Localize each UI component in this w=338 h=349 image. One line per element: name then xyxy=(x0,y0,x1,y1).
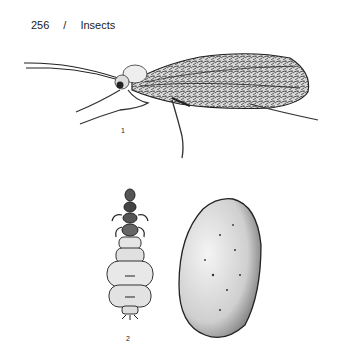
figure-2-larva xyxy=(100,185,160,325)
figure-egg-case xyxy=(175,195,265,345)
figure-2-label: 2 xyxy=(126,335,130,342)
figure-1-label: 1 xyxy=(121,127,125,134)
figure-1-adult-insect xyxy=(0,0,338,170)
